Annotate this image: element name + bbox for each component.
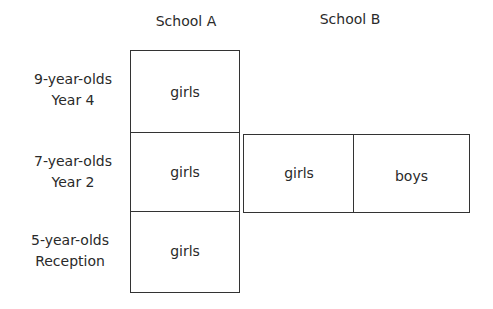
school-a-cell-year-2: girls [130,132,240,213]
school-b-cell-girls: girls [243,134,355,213]
row-year: Reception [10,251,130,272]
row-year: Year 4 [13,90,133,111]
cell-label: girls [131,243,239,259]
column-heading-school-a: School A [126,13,246,29]
row-age: 5-year-olds [10,230,130,251]
row-label-7-year-olds: 7-year-olds Year 2 [13,151,133,193]
school-a-cell-reception: girls [130,211,240,293]
row-year: Year 2 [13,172,133,193]
row-age: 7-year-olds [13,151,133,172]
school-b-cell-boys: boys [353,134,470,213]
row-label-5-year-olds: 5-year-olds Reception [10,230,130,272]
cell-label: girls [244,165,354,181]
column-heading-school-b: School B [290,11,410,27]
row-age: 9-year-olds [13,69,133,90]
cell-label: girls [131,84,239,100]
row-label-9-year-olds: 9-year-olds Year 4 [13,69,133,111]
cell-label: girls [131,164,239,180]
school-a-cell-year-4: girls [130,50,240,134]
cell-label: boys [354,168,469,184]
